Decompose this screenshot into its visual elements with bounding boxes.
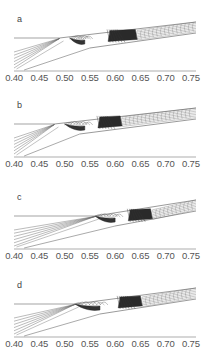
x-tick-label: 0.75 bbox=[182, 72, 200, 83]
x-tick-label: 0.70 bbox=[157, 250, 175, 261]
x-tick-label: 0.55 bbox=[81, 338, 99, 349]
x-tick-label: 0.65 bbox=[132, 250, 150, 261]
x-tick-label: 0.45 bbox=[30, 72, 48, 83]
x-tick-label: 0.55 bbox=[81, 72, 99, 83]
x-tick-label: 0.65 bbox=[132, 158, 150, 169]
x-tick-label: 0.45 bbox=[30, 158, 48, 169]
x-tick-label: 0.60 bbox=[106, 158, 124, 169]
x-axis-ticks: 0.400.450.500.550.600.650.700.75 bbox=[4, 72, 200, 84]
x-tick-label: 0.40 bbox=[5, 250, 23, 261]
x-tick-label: 0.60 bbox=[106, 338, 124, 349]
x-axis-ticks: 0.400.450.500.550.600.650.700.75 bbox=[4, 338, 200, 350]
x-tick-label: 0.50 bbox=[56, 158, 74, 169]
x-tick-label: 0.40 bbox=[5, 338, 23, 349]
x-tick-label: 0.70 bbox=[157, 338, 175, 349]
x-tick-label: 0.40 bbox=[5, 158, 23, 169]
x-tick-label: 0.60 bbox=[106, 72, 124, 83]
x-tick-label: 0.60 bbox=[106, 250, 124, 261]
x-axis-ticks: 0.400.450.500.550.600.650.700.75 bbox=[4, 158, 200, 170]
x-tick-label: 0.55 bbox=[81, 158, 99, 169]
x-tick-label: 0.70 bbox=[157, 72, 175, 83]
x-tick-label: 0.50 bbox=[56, 72, 74, 83]
x-tick-label: 0.75 bbox=[182, 338, 200, 349]
x-tick-label: 0.50 bbox=[56, 250, 74, 261]
x-tick-label: 0.65 bbox=[132, 72, 150, 83]
x-tick-label: 0.75 bbox=[182, 158, 200, 169]
x-tick-label: 0.65 bbox=[132, 338, 150, 349]
x-tick-label: 0.50 bbox=[56, 338, 74, 349]
x-tick-label: 0.70 bbox=[157, 158, 175, 169]
x-tick-label: 0.45 bbox=[30, 338, 48, 349]
x-tick-label: 0.40 bbox=[5, 72, 23, 83]
x-tick-label: 0.45 bbox=[30, 250, 48, 261]
x-tick-label: 0.75 bbox=[182, 250, 200, 261]
x-tick-label: 0.55 bbox=[81, 250, 99, 261]
x-axis-ticks: 0.400.450.500.550.600.650.700.75 bbox=[4, 250, 200, 262]
